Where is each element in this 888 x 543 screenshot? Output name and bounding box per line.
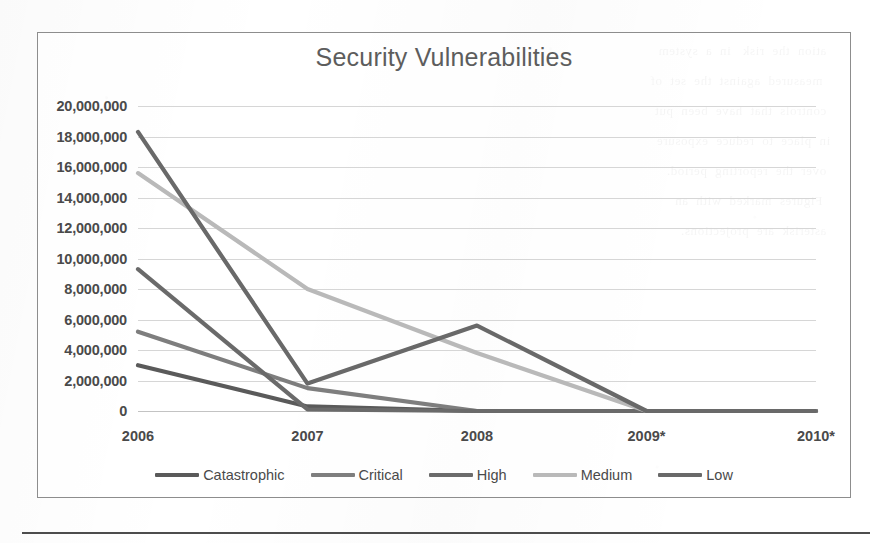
legend-label: Medium (581, 467, 633, 483)
plot-area: 20,000,00018,000,00016,000,00014,000,000… (138, 106, 816, 411)
y-axis-tick-label: 4,000,000 (64, 342, 127, 358)
legend-label: Catastrophic (203, 467, 284, 483)
y-axis-tick-label: 12,000,000 (56, 220, 127, 236)
x-axis-tick-label: 2007 (291, 428, 323, 444)
y-axis-tick-label: 20,000,000 (56, 98, 127, 114)
y-axis-tick-label: 18,000,000 (56, 129, 127, 145)
legend-swatch-high (429, 473, 473, 477)
y-axis-tick-label: 6,000,000 (64, 312, 127, 328)
x-axis-tick-label: 2009* (628, 428, 666, 444)
y-axis-tick-label: 0 (119, 403, 127, 419)
page-horizontal-rule (22, 532, 870, 534)
legend-label: Low (706, 467, 733, 483)
legend-swatch-low (658, 473, 702, 477)
legend-label: Critical (359, 467, 403, 483)
series-line-low (138, 132, 816, 411)
x-axis-tick-label: 2006 (122, 428, 154, 444)
legend-swatch-medium (533, 473, 577, 477)
series-lines (138, 106, 816, 411)
series-line-critical (138, 332, 816, 411)
series-line-catastrophic (138, 365, 816, 411)
legend-item-catastrophic[interactable]: Catastrophic (155, 467, 284, 483)
x-axis-tick-label: 2010* (797, 428, 835, 444)
chart-title: Security Vulnerabilities (38, 43, 850, 72)
legend-item-critical[interactable]: Critical (311, 467, 403, 483)
y-axis-tick-label: 2,000,000 (64, 373, 127, 389)
y-axis-tick-label: 8,000,000 (64, 281, 127, 297)
legend-item-medium[interactable]: Medium (533, 467, 633, 483)
y-axis-tick-label: 14,000,000 (56, 190, 127, 206)
legend-swatch-catastrophic (155, 473, 199, 477)
chart-container: Security Vulnerabilities 20,000,00018,00… (37, 32, 851, 498)
y-axis-tick-label: 10,000,000 (56, 251, 127, 267)
legend-label: High (477, 467, 507, 483)
legend-item-low[interactable]: Low (658, 467, 733, 483)
legend-swatch-critical (311, 473, 355, 477)
legend-item-high[interactable]: High (429, 467, 507, 483)
series-line-medium (138, 173, 816, 411)
y-axis-tick-label: 16,000,000 (56, 159, 127, 175)
chart-legend: CatastrophicCriticalHighMediumLow (38, 467, 850, 483)
x-axis-tick-label: 2008 (461, 428, 493, 444)
